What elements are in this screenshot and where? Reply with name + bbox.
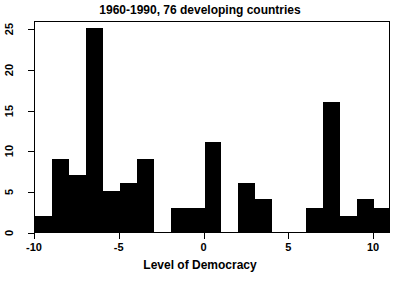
histogram-bar xyxy=(86,28,103,232)
histogram-bar xyxy=(137,159,154,232)
y-tick-label: 20 xyxy=(2,55,16,85)
histogram-figure: 1960-1990, 76 developing countries 05101… xyxy=(0,0,400,282)
x-tick-mark xyxy=(373,233,374,239)
x-tick-mark xyxy=(34,233,35,239)
histogram-bar xyxy=(255,199,272,232)
x-tick-label: -10 xyxy=(14,241,54,253)
x-tick-label: -5 xyxy=(99,241,139,253)
x-tick-mark xyxy=(119,233,120,239)
histogram-bar xyxy=(323,102,340,232)
y-tick-label: 5 xyxy=(2,177,16,207)
histogram-bar xyxy=(205,142,222,232)
histogram-bar xyxy=(103,191,120,232)
histogram-bar xyxy=(374,208,389,232)
histogram-bar xyxy=(69,175,86,232)
x-tick-label: 5 xyxy=(268,241,308,253)
y-tick-label: 10 xyxy=(2,136,16,166)
histogram-bar xyxy=(340,216,357,232)
histogram-bar xyxy=(171,208,188,232)
x-tick-mark xyxy=(288,233,289,239)
histogram-bar xyxy=(357,199,374,232)
x-tick-label: 10 xyxy=(353,241,393,253)
chart-title: 1960-1990, 76 developing countries xyxy=(0,3,400,17)
y-tick-label: 25 xyxy=(2,14,16,44)
histogram-bar xyxy=(306,208,323,232)
x-axis-title: Level of Democracy xyxy=(0,258,400,272)
x-tick-mark xyxy=(204,233,205,239)
histogram-bar xyxy=(188,208,205,232)
x-tick-label: 0 xyxy=(184,241,224,253)
plot-area xyxy=(34,21,390,233)
histogram-bar xyxy=(120,183,137,232)
histogram-bar xyxy=(52,159,69,232)
histogram-bar xyxy=(238,183,255,232)
y-tick-label: 15 xyxy=(2,96,16,126)
histogram-bar xyxy=(35,216,52,232)
bars-layer xyxy=(35,22,389,232)
